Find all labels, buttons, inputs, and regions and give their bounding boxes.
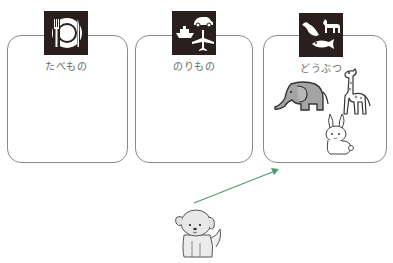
dog-draggable[interactable] — [172, 205, 224, 259]
